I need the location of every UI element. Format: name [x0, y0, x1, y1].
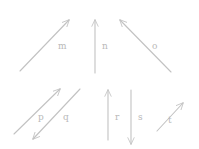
- vector-label-m: m: [58, 42, 67, 51]
- vector-arrow-p: [14, 89, 60, 134]
- diagram-canvas: mnopqrst: [0, 0, 199, 149]
- vector-label-s: s: [138, 113, 143, 122]
- vector-label-o: o: [152, 42, 157, 51]
- vector-arrows-group: [0, 0, 199, 149]
- vector-label-t: t: [168, 116, 172, 125]
- vector-label-p: p: [38, 113, 44, 122]
- vector-label-q: q: [63, 113, 69, 122]
- vector-label-r: r: [115, 113, 119, 122]
- vector-label-n: n: [102, 42, 108, 51]
- vector-arrow-o: [120, 20, 171, 72]
